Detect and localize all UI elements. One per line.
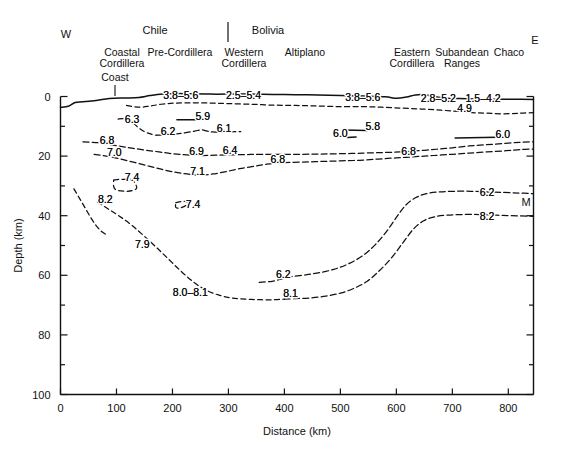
province-label: Altiplano: [285, 46, 325, 58]
velocity-label: 2.5–5.4: [226, 89, 261, 101]
country-label: Bolivia: [252, 24, 285, 36]
velocity-contour: [259, 191, 533, 282]
province-label: Cordillera: [100, 57, 145, 69]
y-axis-tick-label: 40: [38, 210, 50, 222]
velocity-label: 6.2: [276, 268, 291, 280]
province-label: Pre-Cordillera: [148, 46, 213, 58]
y-axis-tick-label: 80: [38, 329, 50, 341]
x-axis-title: Distance (km): [263, 425, 331, 437]
compass-west-label: W: [61, 28, 72, 40]
axes-group: 0204060801000100200300400500600700800Dis…: [12, 91, 534, 437]
cross-section-plot: ChileBolivia CoastalCordilleraPre-Cordil…: [0, 0, 569, 453]
velocity-contour: [347, 137, 356, 138]
y-axis-tick-label: 20: [38, 150, 50, 162]
compass-east-label: E: [531, 34, 538, 46]
velocity-label: 6.2: [161, 125, 176, 137]
velocity-contour: [97, 202, 284, 300]
x-axis-tick-label: 0: [57, 402, 63, 414]
velocity-label: 7.0: [107, 146, 122, 158]
y-axis-tick-label: 100: [32, 389, 50, 401]
velocity-label: 4.9: [457, 102, 472, 114]
velocity-label: 8.0–8.1: [173, 286, 208, 298]
velocity-label: 7.4: [125, 171, 140, 183]
province-label: Cordillera: [390, 57, 435, 69]
x-axis-tick-label: 800: [499, 402, 517, 414]
velocity-label: 6.3: [125, 113, 140, 125]
coast-marker-group: Coast: [101, 71, 129, 96]
province-label: Ranges: [444, 57, 480, 69]
velocity-label: 7.4: [186, 198, 201, 210]
x-axis-tick-label: 200: [163, 402, 181, 414]
seismic-cross-section-figure: ChileBolivia CoastalCordilleraPre-Cordil…: [0, 0, 569, 453]
velocity-label: 8.2: [98, 193, 113, 205]
velocity-label: 6.0: [495, 128, 510, 140]
velocity-label: 6.9: [189, 145, 204, 157]
velocity-contour: [83, 142, 534, 156]
country-label: Chile: [142, 24, 167, 36]
velocity-label: 6.1: [217, 122, 232, 134]
x-axis-tick-label: 100: [107, 402, 125, 414]
coast-label: Coast: [101, 71, 129, 83]
y-axis-tick-label: 60: [38, 269, 50, 281]
moho-label-group: M: [521, 196, 530, 208]
velocity-label: 6.8: [401, 145, 416, 157]
y-axis-title: Depth (km): [12, 218, 24, 272]
x-axis-tick-label: 400: [275, 402, 293, 414]
velocity-label: 3.8–5.6: [163, 89, 198, 101]
x-axis-tick-label: 500: [331, 402, 349, 414]
compass-labels-group: WE: [61, 28, 539, 46]
velocity-label: 6.0: [333, 127, 348, 139]
velocity-label: 7.1: [190, 165, 205, 177]
x-axis-tick-label: 700: [443, 402, 461, 414]
velocity-label: 5.9: [195, 110, 210, 122]
velocity-label: 6.8: [270, 153, 285, 165]
x-axis-tick-label: 600: [387, 402, 405, 414]
velocity-label: 5.8: [366, 120, 381, 132]
country-labels-group: ChileBolivia: [142, 24, 285, 36]
velocity-labels-group: 3.8–5.63.8–5.62.5–5.42.5–5.43.8–5.63.8–5…: [98, 89, 510, 299]
velocity-label: 2.8–5.2: [421, 92, 456, 104]
velocity-label: 6.2: [480, 186, 495, 198]
velocity-label: 8.2: [480, 210, 495, 222]
velocity-contour: [455, 137, 497, 138]
velocity-label: 6.8: [100, 134, 115, 146]
velocity-contour: [127, 103, 534, 114]
moho-label: M: [521, 196, 530, 208]
x-axis-tick-label: 300: [219, 402, 237, 414]
province-label: Chaco: [494, 46, 525, 58]
velocity-label: 8.1: [283, 287, 298, 299]
velocity-label: 6.4: [223, 144, 238, 156]
velocity-contour: [284, 214, 533, 299]
velocity-contour: [94, 149, 533, 175]
velocity-label: 7.9: [135, 238, 150, 250]
velocity-label: 3.8–5.6: [345, 91, 380, 103]
y-axis-tick-label: 0: [44, 91, 50, 103]
province-labels-group: CoastalCordilleraPre-CordilleraWesternCo…: [100, 46, 525, 69]
province-label: Cordillera: [222, 57, 267, 69]
